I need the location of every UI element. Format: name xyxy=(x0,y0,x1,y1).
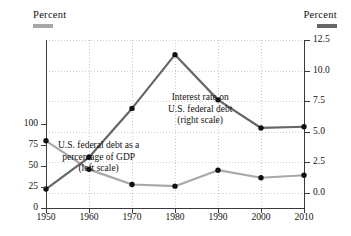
debt-gdp-point xyxy=(301,173,306,178)
y-right-tick-label: 7.5 xyxy=(313,95,325,105)
y-left-tick-mark xyxy=(41,145,46,146)
y-right-tick-mark xyxy=(305,71,310,72)
annotation-interest-rate: Interest rate onU.S. federal debt(right … xyxy=(168,92,232,127)
y-left-tick-mark xyxy=(41,187,46,188)
interest-rate-point xyxy=(172,52,177,57)
x-tick-label: 1990 xyxy=(209,212,228,222)
annotation-interest-line: (right scale) xyxy=(168,115,232,127)
debt-gdp-point xyxy=(172,183,177,188)
x-tick-label: 1980 xyxy=(166,212,185,222)
x-tick-label: 1970 xyxy=(123,212,142,222)
annotation-federal-debt: U.S. federal debt as apercentage of GDP(… xyxy=(58,140,139,175)
x-tick-label: 1960 xyxy=(80,212,99,222)
annotation-debt-line: (left scale) xyxy=(58,163,139,175)
y-right-tick-label: 2.5 xyxy=(313,156,325,166)
debt-gdp-point xyxy=(215,168,220,173)
x-tick-label: 1950 xyxy=(37,212,56,222)
annotation-debt-line: percentage of GDP xyxy=(58,152,139,164)
y-right-tick-mark xyxy=(305,132,310,133)
chart-container: Percent Percent Interest rate onU.S. fed… xyxy=(0,0,351,236)
y-right-tick-mark xyxy=(305,101,310,102)
debt-gdp-point xyxy=(43,138,48,143)
debt-gdp-point xyxy=(258,175,263,180)
y-right-tick-label: 5.0 xyxy=(313,126,325,136)
x-tick-label: 2010 xyxy=(295,212,314,222)
y-right-tick-mark xyxy=(305,162,310,163)
y-left-tick-mark xyxy=(41,208,46,209)
y-left-tick-label: 0 xyxy=(33,202,38,212)
y-left-tick-label: 25 xyxy=(29,181,39,191)
interest-rate-point xyxy=(258,125,263,130)
y-right-tick-label: 10.0 xyxy=(313,65,330,75)
y-left-tick-mark xyxy=(41,124,46,125)
interest-rate-point xyxy=(301,124,306,129)
y-left-tick-label: 50 xyxy=(29,160,39,170)
annotation-interest-line: Interest rate on xyxy=(168,92,232,104)
interest-rate-point xyxy=(129,106,134,111)
y-right-tick-mark xyxy=(305,193,310,194)
y-left-tick-label: 75 xyxy=(29,139,39,149)
y-right-tick-mark xyxy=(305,40,310,41)
y-right-tick-label: 12.5 xyxy=(313,34,330,44)
annotation-interest-line: U.S. federal debt xyxy=(168,104,232,116)
annotation-debt-line: U.S. federal debt as a xyxy=(58,140,139,152)
y-left-tick-label: 100 xyxy=(24,118,38,128)
y-left-tick-mark xyxy=(41,166,46,167)
y-right-tick-label: 0.0 xyxy=(313,187,325,197)
x-tick-label: 2000 xyxy=(252,212,271,222)
debt-gdp-point xyxy=(129,182,134,187)
